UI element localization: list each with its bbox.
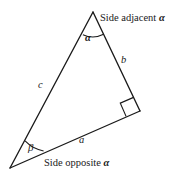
right-angle-marker-icon xyxy=(120,97,133,116)
side-opposite-text: Side opposite xyxy=(44,157,104,168)
angle-alpha-label: α xyxy=(85,33,91,44)
side-c-label: c xyxy=(38,80,43,91)
side-adjacent-text: Side adjacent xyxy=(100,12,159,23)
angle-beta-label: β xyxy=(28,142,33,153)
side-opposite-alpha-symbol: α xyxy=(104,157,110,168)
triangle-figure: Side adjacent α Side opposite α a b c α … xyxy=(0,0,181,175)
side-a-label: a xyxy=(79,135,84,146)
triangle-side-b-line xyxy=(93,12,140,111)
side-b-label: b xyxy=(121,55,126,66)
side-adjacent-alpha-symbol: α xyxy=(159,12,165,23)
side-adjacent-label: Side adjacent α xyxy=(100,13,165,24)
side-opposite-label: Side opposite α xyxy=(44,158,109,169)
